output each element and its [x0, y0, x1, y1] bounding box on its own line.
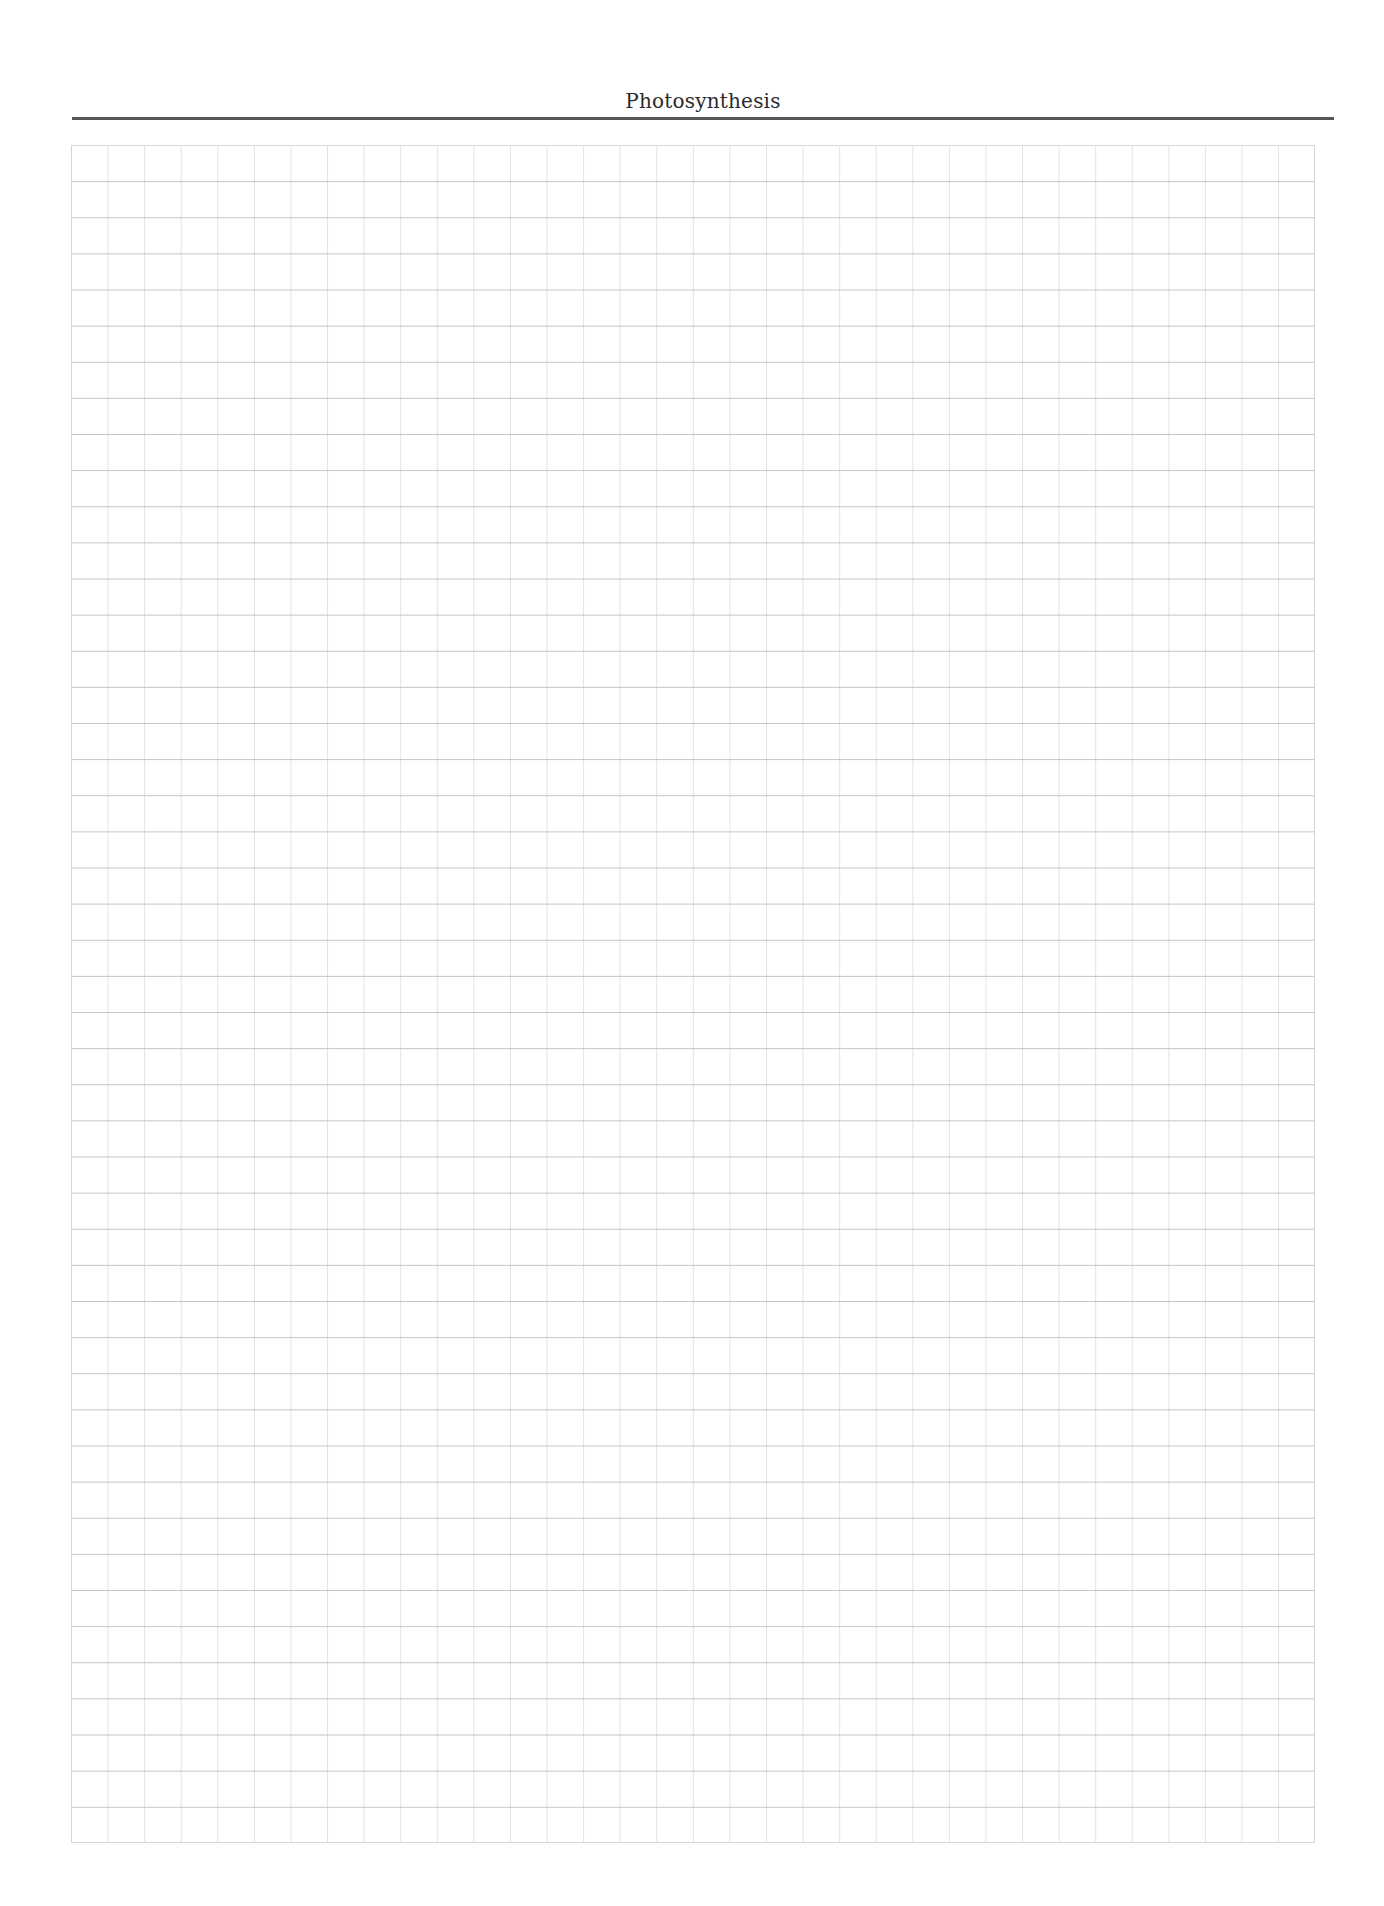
header-rule — [72, 117, 1334, 120]
graph-paper-grid — [71, 145, 1315, 1843]
page-title: Photosynthesis — [72, 88, 1334, 114]
page-header: Photosynthesis — [72, 88, 1334, 120]
